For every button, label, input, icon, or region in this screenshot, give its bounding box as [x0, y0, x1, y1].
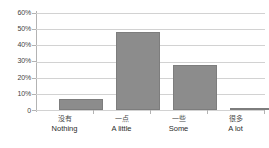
y-axis-tick-label: 60%	[1, 9, 31, 16]
x-axis-label-en: A lot	[207, 124, 264, 134]
x-axis-label-a-lot: 很多 A lot	[207, 114, 264, 134]
bar-a-little	[116, 32, 160, 110]
y-axis-tick-label: 40%	[1, 41, 31, 48]
y-axis-tick-label: 0	[1, 107, 31, 114]
y-axis-tick-label: 30%	[1, 57, 31, 64]
x-axis-label-zh: 一些	[150, 114, 207, 124]
y-axis-tick-label: 50%	[1, 25, 31, 32]
gridline-50	[36, 29, 265, 30]
x-axis-label-en: Some	[150, 124, 207, 134]
x-axis-label-zh: 一点	[93, 114, 150, 124]
plot-area	[36, 13, 265, 110]
bar-some	[173, 65, 217, 110]
y-axis-labels: 60% 50% 40% 30% 20% 10% 0	[0, 0, 31, 148]
gridline-60	[36, 13, 265, 14]
y-axis-tick-label: 10%	[1, 90, 31, 97]
x-axis-label-en: A little	[93, 124, 150, 134]
bar-nothing	[59, 99, 103, 110]
x-axis-label-a-little: 一点 A little	[93, 114, 150, 134]
bar-chart: 60% 50% 40% 30% 20% 10% 0 没有 Nothing	[0, 0, 269, 148]
x-axis-label-some: 一些 Some	[150, 114, 207, 134]
x-axis-label-en: Nothing	[36, 124, 93, 134]
x-axis-label-nothing: 没有 Nothing	[36, 114, 93, 134]
x-axis-label-zh: 很多	[207, 114, 264, 124]
x-axis-tick	[264, 110, 265, 114]
x-axis-label-zh: 没有	[36, 114, 93, 124]
y-axis-tick-label: 20%	[1, 74, 31, 81]
